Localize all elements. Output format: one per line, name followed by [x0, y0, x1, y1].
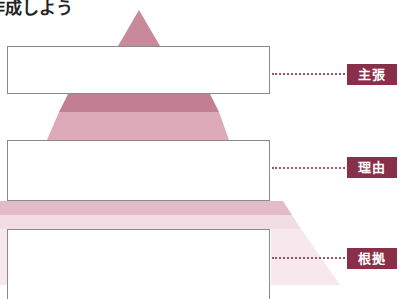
- reason-leader-line: [272, 167, 345, 169]
- reason-box[interactable]: [7, 140, 270, 201]
- evidence-box[interactable]: [7, 229, 270, 299]
- reason-label: 理由: [347, 157, 397, 178]
- pyramid-band-2-mid: [47, 112, 229, 140]
- evidence-label: 根拠: [347, 248, 397, 269]
- pyramid-band-2-dark: [59, 94, 219, 112]
- pyramid-band-3-mid: [0, 201, 292, 215]
- pyramid-apex: [118, 10, 160, 46]
- claim-leader-line: [272, 73, 345, 75]
- pyramid-base-left-faint: [0, 229, 7, 285]
- evidence-leader-line: [272, 257, 345, 259]
- claim-label: 主張: [347, 64, 397, 85]
- claim-box[interactable]: [7, 46, 270, 94]
- pyramid-band-3-light: [0, 215, 301, 229]
